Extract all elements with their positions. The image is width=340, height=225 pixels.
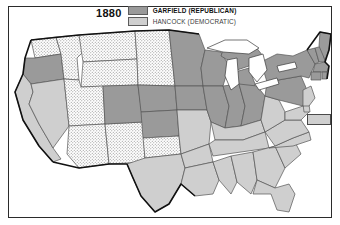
legend-label-republican: GARFIELD (REPUBLICAN) <box>153 7 237 14</box>
region-NM[interactable] <box>105 122 145 164</box>
region-NE[interactable] <box>138 85 177 112</box>
election-map-figure: 1880 GARFIELD (REPUBLICAN) HANCOCK (DEMO… <box>0 0 340 225</box>
us-map-svg <box>9 28 331 218</box>
northeast-state-inset-callout[interactable] <box>307 114 331 125</box>
map-legend: 1880 GARFIELD (REPUBLICAN) HANCOCK (DEMO… <box>96 5 236 26</box>
region-AZ[interactable] <box>67 124 109 168</box>
region-MT[interactable] <box>79 31 137 62</box>
legend-item-democratic[interactable]: HANCOCK (DEMOCRATIC) <box>128 16 237 26</box>
democratic-swatch <box>128 17 148 26</box>
republican-swatch <box>128 6 148 15</box>
region-OR[interactable] <box>23 54 64 84</box>
region-AL[interactable] <box>231 152 257 194</box>
region-DAK[interactable] <box>135 30 175 86</box>
region-CT[interactable] <box>311 72 321 80</box>
region-MN[interactable] <box>169 30 205 86</box>
legend-item-republican[interactable]: GARFIELD (REPUBLICAN) <box>128 5 237 15</box>
region-RI[interactable] <box>322 72 327 79</box>
year-label: 1880 <box>96 5 122 19</box>
region-IA[interactable] <box>175 86 207 110</box>
region-KS[interactable] <box>141 110 179 138</box>
us-map[interactable] <box>9 28 331 218</box>
legend-label-democratic: HANCOCK (DEMOCRATIC) <box>153 18 236 25</box>
region-WY[interactable] <box>81 59 138 87</box>
region-CO[interactable] <box>103 85 143 124</box>
legend-rows: GARFIELD (REPUBLICAN) HANCOCK (DEMOCRATI… <box>128 5 237 26</box>
region-NJ[interactable] <box>303 86 315 106</box>
